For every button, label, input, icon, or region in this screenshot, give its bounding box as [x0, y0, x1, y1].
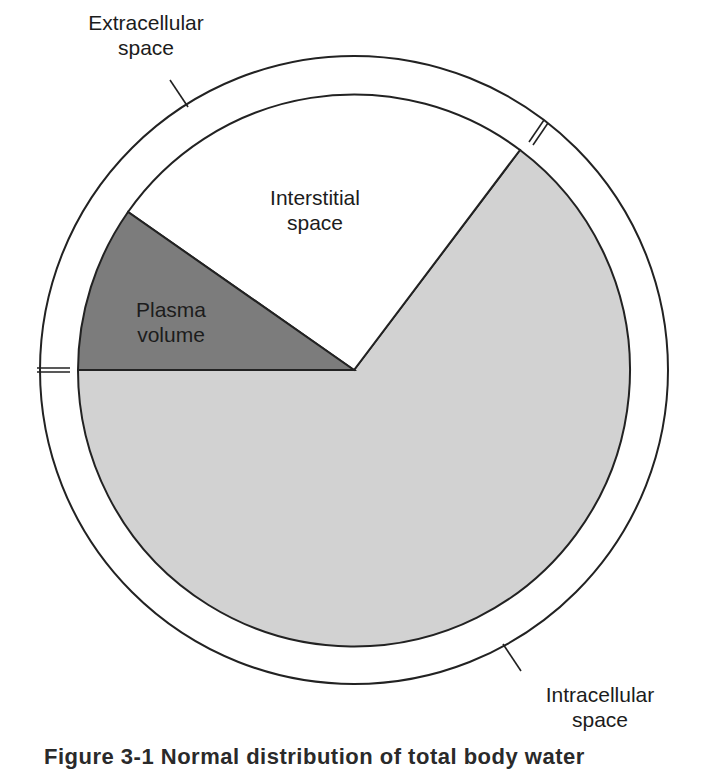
- label-line: Interstitial: [230, 185, 400, 210]
- intracellular-leader: [503, 644, 521, 671]
- label-line: space: [230, 210, 400, 235]
- label-interstitial-space: Interstitial space: [230, 185, 400, 235]
- extracellular-leader: [170, 80, 188, 107]
- label-line: volume: [106, 322, 236, 347]
- label-intracellular-space: Intracellular space: [510, 682, 690, 732]
- label-extracellular-space: Extracellular space: [56, 10, 236, 60]
- label-line: Extracellular: [56, 10, 236, 35]
- label-line: space: [56, 35, 236, 60]
- figure-caption: Figure 3-1 Normal distribution of total …: [44, 744, 585, 770]
- label-line: Plasma: [106, 297, 236, 322]
- label-line: Intracellular: [510, 682, 690, 707]
- label-line: space: [510, 707, 690, 732]
- label-plasma-volume: Plasma volume: [106, 297, 236, 347]
